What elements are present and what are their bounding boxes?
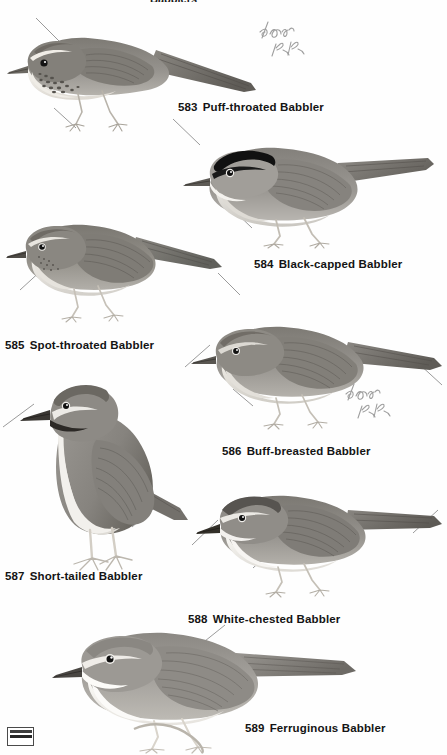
caption-number-584: 584 <box>254 258 274 270</box>
stamp-line-bottom <box>10 735 32 738</box>
handwritten-annotation-2 <box>344 378 408 422</box>
caption-584: 584Black-capped Babbler <box>254 258 402 270</box>
plate-title-text: Babblers <box>150 0 300 2</box>
caption-name-583: Puff-throated Babbler <box>203 101 324 113</box>
caption-number-586: 586 <box>222 445 242 457</box>
publisher-stamp <box>7 727 34 746</box>
caption-number-587: 587 <box>5 570 25 582</box>
caption-name-587: Short-tailed Babbler <box>30 570 143 582</box>
bird-illustration-588 <box>196 488 444 598</box>
caption-583: 583Puff-throated Babbler <box>178 101 324 113</box>
bird-illustration-583 <box>6 28 256 140</box>
handwritten-annotation-1 <box>258 18 322 62</box>
bird-plate: Babblers <box>0 0 447 755</box>
caption-589: 589Ferruginous Babbler <box>245 722 386 734</box>
caption-588: 588White-chested Babbler <box>188 613 340 625</box>
caption-587: 587Short-tailed Babbler <box>5 570 143 582</box>
bird-illustration-587 <box>16 378 198 576</box>
caption-number-585: 585 <box>5 339 25 351</box>
caption-586: 586Buff-breasted Babbler <box>222 445 371 457</box>
caption-number-589: 589 <box>245 722 265 734</box>
caption-name-584: Black-capped Babbler <box>279 258 403 270</box>
caption-number-583: 583 <box>178 101 198 113</box>
caption-name-588: White-chested Babbler <box>213 613 341 625</box>
plate-title-cropped: Babblers <box>150 0 300 2</box>
caption-name-589: Ferruginous Babbler <box>270 722 386 734</box>
bird-illustration-585 <box>6 215 228 323</box>
caption-name-586: Buff-breasted Babbler <box>247 445 371 457</box>
stamp-line-top <box>10 730 32 733</box>
caption-name-585: Spot-throated Babbler <box>30 339 155 351</box>
caption-number-588: 588 <box>188 613 208 625</box>
caption-585: 585Spot-throated Babbler <box>5 339 154 351</box>
